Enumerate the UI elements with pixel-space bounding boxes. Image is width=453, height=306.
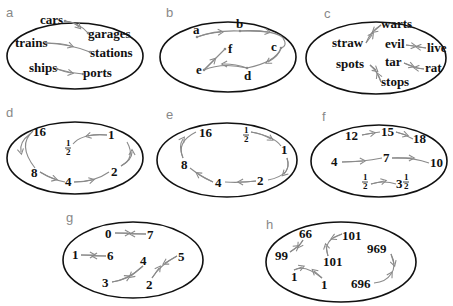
analogy-diagram: a cars garages trains stations ships por… — [0, 0, 453, 306]
word-cars: cars — [40, 12, 63, 27]
num-66: 66 — [299, 226, 313, 241]
num-3: 3 — [102, 275, 109, 290]
word-tar: tar — [385, 54, 402, 69]
word-garages: garages — [88, 26, 131, 41]
panel-g-arrows — [81, 233, 177, 282]
num-1: 1 — [281, 142, 288, 157]
num-8: 8 — [181, 157, 188, 172]
num-three: 3 — [396, 176, 403, 191]
num-101-top: 101 — [342, 228, 362, 243]
num-6: 6 — [107, 248, 114, 263]
num-2: 2 — [111, 164, 118, 179]
num-2: 2 — [257, 173, 264, 188]
word-stations: stations — [90, 45, 133, 60]
num-4: 4 — [331, 154, 338, 169]
panel-c: c straw warts evil live spots stops tar … — [306, 6, 447, 94]
panel-e: e 16 8 4 2 1 1 2 — [157, 107, 297, 197]
num-969: 969 — [367, 241, 387, 256]
node-e: e — [196, 62, 202, 77]
node-d: d — [244, 68, 252, 83]
num-1: 1 — [108, 127, 115, 142]
frac-half-den: 2 — [244, 134, 249, 144]
panel-letter-h: h — [266, 217, 273, 232]
panel-letter-b: b — [166, 5, 173, 20]
num-1-right: 1 — [321, 277, 328, 292]
word-warts: warts — [381, 16, 412, 31]
panel-e-ellipse — [157, 123, 297, 197]
num-16: 16 — [199, 125, 213, 140]
num-1-left: 1 — [291, 269, 298, 284]
panel-a: a cars garages trains stations ships por… — [6, 5, 143, 89]
word-ports: ports — [83, 65, 112, 80]
word-straw: straw — [332, 35, 364, 50]
frac-half-den: 2 — [363, 181, 368, 191]
node-f: f — [228, 41, 233, 56]
num-7: 7 — [147, 227, 154, 242]
num-12: 12 — [345, 128, 358, 143]
panel-d: d 16 8 4 2 1 1 2 — [6, 105, 143, 194]
panel-g: g 0 7 1 6 3 4 2 5 — [63, 210, 203, 298]
num-18: 18 — [413, 131, 427, 146]
word-live: live — [427, 40, 447, 55]
num-5: 5 — [178, 249, 185, 264]
panel-letter-f: f — [322, 109, 326, 124]
node-a: a — [193, 22, 200, 37]
panel-letter-g: g — [66, 210, 73, 225]
num-10: 10 — [430, 155, 443, 170]
frac-three-half-den: 2 — [404, 181, 409, 191]
panel-letter-e: e — [166, 107, 173, 122]
node-b: b — [236, 16, 243, 31]
panel-letter-a: a — [6, 5, 14, 20]
panel-d-ellipse — [7, 122, 143, 194]
num-4: 4 — [215, 175, 222, 190]
word-ships: ships — [29, 60, 57, 75]
num-4: 4 — [140, 253, 147, 268]
num-2: 2 — [146, 277, 153, 292]
num-101-bottom: 101 — [323, 254, 343, 269]
panel-c-ellipse — [306, 22, 446, 94]
panel-letter-c: c — [324, 6, 331, 21]
node-c: c — [271, 39, 277, 54]
panel-b: b a b c d e f — [160, 5, 296, 92]
word-trains: trains — [15, 35, 48, 50]
num-15: 15 — [381, 124, 395, 139]
num-4: 4 — [65, 174, 72, 189]
frac-half-den: 2 — [66, 147, 71, 157]
panel-letter-d: d — [6, 105, 13, 120]
num-696: 696 — [351, 276, 371, 291]
word-evil: evil — [385, 36, 405, 51]
num-0: 0 — [105, 226, 112, 241]
num-99: 99 — [275, 248, 289, 263]
panel-f: f 12 15 18 4 7 10 1 2 3 1 2 — [311, 109, 447, 197]
panel-h: h 66 99 101 101 969 696 1 1 — [266, 217, 416, 302]
word-spots: spots — [336, 56, 364, 71]
word-stops: stops — [381, 74, 409, 89]
panel-e-arrows — [181, 132, 289, 182]
word-rat: rat — [425, 60, 442, 75]
num-16: 16 — [33, 124, 47, 139]
num-7: 7 — [383, 150, 390, 165]
num-1: 1 — [72, 247, 79, 262]
